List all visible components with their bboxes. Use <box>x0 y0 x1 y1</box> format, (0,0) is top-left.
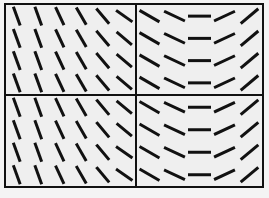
line-segment <box>215 34 233 42</box>
line-segment <box>165 103 183 111</box>
line-segment <box>141 56 158 66</box>
line-segment <box>215 56 233 64</box>
line-segment <box>242 76 257 89</box>
line-segment <box>215 103 233 111</box>
line-segment <box>35 8 41 24</box>
horizontal-divider <box>6 94 262 96</box>
line-segment <box>14 122 20 138</box>
line-segment <box>97 123 108 136</box>
line-segment <box>215 79 233 87</box>
line-segment <box>56 8 63 23</box>
line-segment <box>56 145 63 160</box>
line-segment <box>35 30 41 46</box>
orientation-field-figure <box>4 3 264 188</box>
line-segment <box>14 99 20 115</box>
line-segment <box>165 12 183 20</box>
line-segment <box>118 33 131 44</box>
line-segment <box>97 10 108 23</box>
line-segment <box>141 78 158 88</box>
segment-field <box>137 96 262 186</box>
line-segment <box>77 145 86 160</box>
segment-field <box>6 96 135 186</box>
quadrant-bottom-right <box>137 96 262 186</box>
line-segment <box>165 148 183 156</box>
line-segment <box>35 75 41 91</box>
line-segment <box>56 53 63 68</box>
line-segment <box>215 171 233 179</box>
line-segment <box>14 167 20 183</box>
line-segment <box>77 122 86 137</box>
line-segment <box>165 171 183 179</box>
line-segment <box>118 77 131 88</box>
line-segment <box>118 102 131 113</box>
line-segment <box>242 146 257 159</box>
quadrant-top-left <box>6 5 135 94</box>
line-segment <box>242 54 257 67</box>
line-segment <box>14 8 20 24</box>
line-segment <box>35 144 41 160</box>
line-segment <box>35 167 41 183</box>
line-segment <box>165 126 183 134</box>
line-segment <box>97 32 108 45</box>
line-segment <box>141 33 158 43</box>
line-segment <box>35 53 41 69</box>
line-segment <box>56 167 63 182</box>
line-segment <box>165 34 183 42</box>
line-segment <box>242 101 257 114</box>
quadrant-top-right <box>137 5 262 94</box>
line-segment <box>77 53 86 68</box>
line-segment <box>141 11 158 21</box>
line-segment <box>14 53 20 69</box>
line-segment <box>165 79 183 87</box>
line-segment <box>77 9 86 24</box>
line-segment <box>77 76 86 91</box>
line-segment <box>35 122 41 138</box>
line-segment <box>118 55 131 66</box>
line-segment <box>97 76 108 89</box>
line-segment <box>14 75 20 91</box>
line-segment <box>141 125 158 135</box>
line-segment <box>242 10 257 23</box>
line-segment <box>215 12 233 20</box>
line-segment <box>141 102 158 112</box>
line-segment <box>56 75 63 90</box>
line-segment <box>97 101 108 114</box>
line-segment <box>77 167 86 182</box>
line-segment <box>141 147 158 157</box>
segment-field <box>137 5 262 94</box>
line-segment <box>242 32 257 45</box>
line-segment <box>215 126 233 134</box>
line-segment <box>118 124 131 135</box>
line-segment <box>77 31 86 46</box>
line-segment <box>97 54 108 67</box>
segment-field <box>6 5 135 94</box>
line-segment <box>56 122 63 137</box>
line-segment <box>117 170 131 180</box>
line-segment <box>56 100 63 115</box>
line-segment <box>215 148 233 156</box>
line-segment <box>35 99 41 115</box>
line-segment <box>242 168 257 181</box>
quadrant-bottom-left <box>6 96 135 186</box>
line-segment <box>117 147 131 157</box>
line-segment <box>141 170 158 180</box>
line-segment <box>165 56 183 64</box>
line-segment <box>14 144 20 160</box>
line-segment <box>97 146 108 159</box>
line-segment <box>242 123 257 136</box>
line-segment <box>56 31 63 46</box>
line-segment <box>77 100 86 115</box>
line-segment <box>97 168 108 181</box>
line-segment <box>117 11 131 21</box>
line-segment <box>14 30 20 46</box>
